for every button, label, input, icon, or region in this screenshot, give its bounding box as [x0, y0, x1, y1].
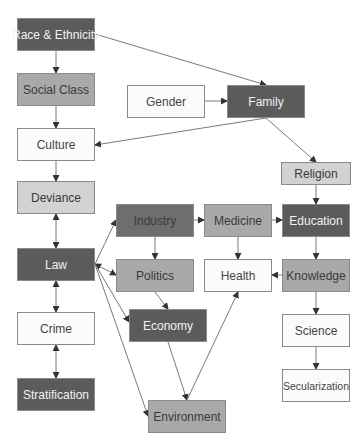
node-label: Environment	[153, 410, 220, 424]
node-secularization[interactable]: Secularization	[282, 369, 350, 402]
node-economy[interactable]: Economy	[129, 309, 207, 342]
node-label: Education	[289, 214, 342, 228]
node-deviance[interactable]: Deviance	[17, 181, 95, 214]
node-label: Religion	[294, 167, 337, 181]
node-social[interactable]: Social Class	[17, 73, 95, 106]
edge-economy-to-environment	[168, 342, 187, 400]
node-label: Culture	[37, 138, 76, 152]
node-health[interactable]: Health	[204, 259, 272, 292]
edge-family-to-culture	[95, 118, 266, 145]
node-crime[interactable]: Crime	[17, 312, 95, 345]
node-label: Knowledge	[286, 269, 345, 283]
node-label: Politics	[136, 269, 174, 283]
node-knowledge[interactable]: Knowledge	[282, 259, 350, 292]
node-stratification[interactable]: Stratification	[17, 378, 95, 411]
node-family[interactable]: Family	[227, 85, 305, 118]
node-race[interactable]: Race & Ethnicity	[17, 18, 95, 51]
node-education[interactable]: Education	[282, 204, 350, 237]
edge-law-to-industry	[95, 220, 116, 264]
node-politics[interactable]: Politics	[116, 259, 194, 292]
node-label: Medicine	[214, 214, 262, 228]
edge-race-to-family	[95, 34, 266, 85]
node-label: Industry	[134, 214, 177, 228]
node-label: Deviance	[31, 191, 81, 205]
edge-family-to-religion	[266, 118, 316, 162]
node-label: Secularization	[283, 380, 349, 392]
node-label: Family	[248, 95, 283, 109]
node-science[interactable]: Science	[282, 314, 350, 347]
node-law[interactable]: Law	[17, 248, 95, 281]
node-label: Law	[45, 258, 67, 272]
node-religion[interactable]: Religion	[281, 162, 351, 185]
node-label: Gender	[146, 95, 186, 109]
node-label: Stratification	[23, 388, 89, 402]
node-label: Health	[221, 269, 256, 283]
node-label: Economy	[143, 319, 193, 333]
node-industry[interactable]: Industry	[116, 204, 194, 237]
node-medicine[interactable]: Medicine	[204, 204, 272, 237]
edge-politics-to-economy	[155, 292, 168, 309]
node-label: Social Class	[23, 83, 89, 97]
node-label: Race & Ethnicity	[12, 28, 100, 42]
node-environment[interactable]: Environment	[148, 400, 226, 433]
node-gender[interactable]: Gender	[127, 85, 205, 118]
node-label: Science	[295, 324, 338, 338]
node-label: Crime	[40, 322, 72, 336]
node-culture[interactable]: Culture	[17, 128, 95, 161]
